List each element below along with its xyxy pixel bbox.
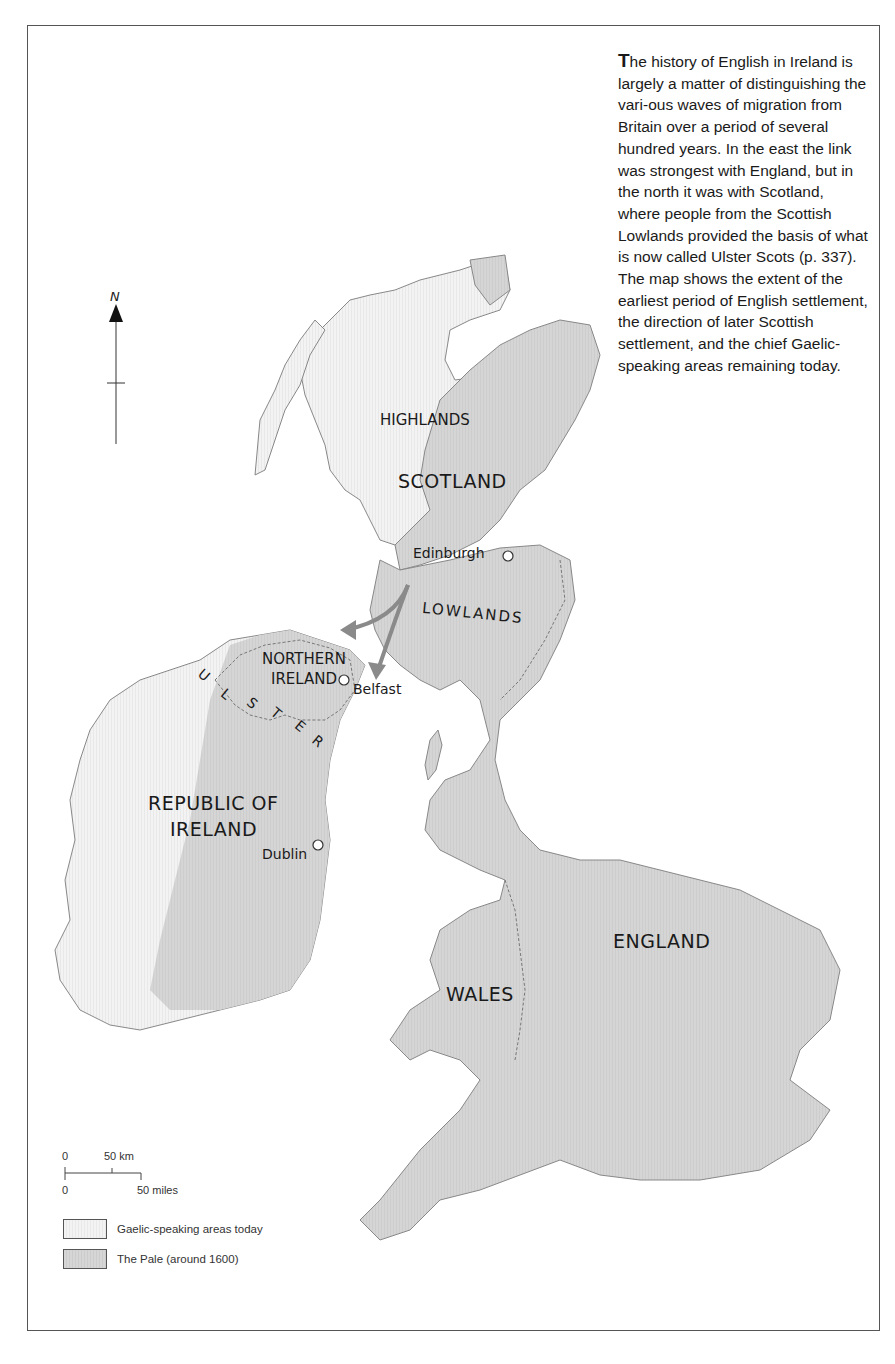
legend-label-gaelic: Gaelic-speaking areas today bbox=[117, 1223, 263, 1235]
label-republic-1: REPUBLIC OF bbox=[148, 792, 278, 814]
label-highlands: HIGHLANDS bbox=[380, 411, 470, 429]
label-scotland: SCOTLAND bbox=[398, 470, 507, 492]
north-arrow-icon bbox=[109, 304, 123, 322]
city-dublin: Dublin bbox=[262, 846, 307, 862]
dublin-marker-icon bbox=[313, 840, 323, 850]
north-label: N bbox=[110, 289, 120, 304]
scale-km-zero: 0 bbox=[62, 1150, 68, 1162]
label-republic-2: IRELAND bbox=[170, 818, 257, 840]
legend-label-pale: The Pale (around 1600) bbox=[117, 1253, 238, 1265]
city-edinburgh: Edinburgh bbox=[413, 545, 485, 561]
caption-dropcap: T bbox=[618, 50, 630, 71]
label-northern-ireland-1: NORTHERN bbox=[262, 650, 346, 668]
migration-arrowhead-west-icon bbox=[340, 620, 356, 640]
city-belfast: Belfast bbox=[353, 681, 401, 697]
migration-arrowhead-south-icon bbox=[368, 662, 386, 680]
scale-km-label: 50 km bbox=[104, 1150, 134, 1162]
great-britain-south-land bbox=[360, 545, 840, 1240]
label-england: ENGLAND bbox=[613, 930, 710, 952]
scale-mi-zero: 0 bbox=[62, 1184, 68, 1196]
label-wales: WALES bbox=[446, 983, 514, 1005]
legend-item-gaelic: Gaelic-speaking areas today bbox=[63, 1219, 263, 1239]
legend-swatch-gaelic bbox=[63, 1219, 107, 1239]
legend-swatch-pale bbox=[63, 1249, 107, 1269]
label-northern-ireland-2: IRELAND bbox=[271, 670, 337, 688]
isle-of-man bbox=[425, 730, 442, 780]
caption-body: he history of English in Ireland is larg… bbox=[618, 53, 868, 374]
edinburgh-marker-icon bbox=[503, 551, 513, 561]
caption-text: The history of English in Ireland is lar… bbox=[618, 50, 868, 377]
legend-item-pale: The Pale (around 1600) bbox=[63, 1249, 238, 1269]
scale-mi-label: 50 miles bbox=[137, 1184, 178, 1196]
belfast-marker-icon bbox=[339, 675, 349, 685]
